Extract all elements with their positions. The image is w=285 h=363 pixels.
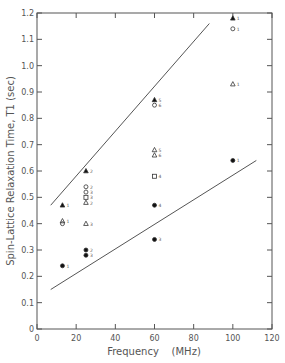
y-axis-label: Spin-Lattice Relaxation Time, T1 (sec) (5, 76, 16, 266)
point-label: 3 (90, 222, 93, 227)
lower-bound-line (51, 160, 257, 289)
y-tick-label: 0.5 (21, 193, 34, 202)
point-label: 5 (159, 98, 162, 103)
circle-filled-marker: 2 (84, 248, 93, 253)
point-label: 1 (66, 219, 69, 224)
circle-open-marker: 2 (84, 185, 93, 190)
point-label: 1 (237, 27, 240, 32)
x-tick-label: 60 (149, 334, 159, 343)
square-open-marker: 3 (84, 195, 93, 200)
circle-filled-marker: 3 (84, 253, 93, 258)
point-label: 6 (159, 103, 162, 108)
y-tick-label: 0.6 (21, 167, 34, 176)
x-tick-label: 120 (264, 334, 279, 343)
x-axis-label: Frequency (MHz) (107, 346, 201, 357)
point-label: 1 (237, 158, 240, 163)
y-tick-label: 0.9 (21, 88, 34, 97)
circle-open-marker: 3 (84, 190, 93, 195)
y-tick-label: 0 (29, 325, 34, 334)
triangle-open-marker: 3 (84, 221, 93, 227)
plot-frame (37, 13, 272, 329)
point-label: 1 (66, 203, 69, 208)
triangle-open-marker: 6 (152, 153, 161, 159)
point-label: 4 (159, 174, 162, 179)
point-label: 5 (159, 148, 162, 153)
circle-filled-marker: 1 (231, 158, 240, 163)
point-label: 2 (90, 248, 93, 253)
y-tick-label: 1.0 (21, 62, 34, 71)
circle-open-marker (60, 222, 64, 226)
x-tick-label: 40 (110, 334, 120, 343)
y-tick-label: 0.2 (21, 272, 34, 281)
triangle-open-marker: 5 (152, 147, 161, 153)
triangle-filled-marker: 5 (152, 97, 161, 103)
point-label: 6 (159, 153, 162, 158)
circle-open-marker: 1 (231, 27, 240, 32)
point-label: 1 (237, 82, 240, 87)
circle-filled-marker: 4 (153, 203, 162, 208)
y-tick-label: 0.8 (21, 114, 34, 123)
point-label: 3 (90, 195, 93, 200)
bound-lines (51, 24, 257, 290)
y-axis-ticks: 00.10.20.30.40.50.60.70.80.91.01.11.2 (21, 9, 272, 334)
point-label: 2 (90, 169, 93, 174)
circle-filled-marker: 3 (153, 237, 162, 242)
circle-open-marker: 6 (153, 103, 162, 108)
point-label: 1 (66, 264, 69, 269)
chart: 00.10.20.30.40.50.60.70.80.91.01.11.2 02… (0, 0, 285, 363)
point-label: 2 (90, 201, 93, 206)
y-tick-label: 1.1 (21, 35, 34, 44)
y-tick-label: 0.7 (21, 141, 34, 150)
x-tick-label: 0 (34, 334, 39, 343)
data-points: 1251236134123561123431 (60, 16, 240, 269)
point-label: 1 (237, 16, 240, 21)
upper-bound-line (51, 24, 210, 206)
point-label: 2 (90, 185, 93, 190)
x-tick-label: 80 (189, 334, 199, 343)
point-label: 3 (90, 253, 93, 258)
point-label: 3 (159, 237, 162, 242)
point-label: 3 (90, 190, 93, 195)
triangle-open-marker: 2 (84, 200, 93, 206)
circle-filled-marker: 1 (60, 264, 69, 269)
point-label: 4 (159, 203, 162, 208)
y-tick-label: 0.4 (21, 220, 34, 229)
x-tick-label: 20 (71, 334, 81, 343)
y-tick-label: 0.1 (21, 299, 34, 308)
triangle-filled-marker: 2 (84, 169, 93, 175)
triangle-open-marker: 1 (231, 82, 240, 88)
y-tick-label: 1.2 (21, 9, 34, 18)
x-tick-label: 100 (225, 334, 240, 343)
x-axis-ticks: 020406080100120 (34, 13, 279, 343)
y-tick-label: 0.3 (21, 246, 34, 255)
triangle-filled-marker: 1 (60, 203, 69, 209)
triangle-filled-marker: 1 (231, 16, 240, 22)
square-open-marker: 4 (153, 174, 162, 179)
